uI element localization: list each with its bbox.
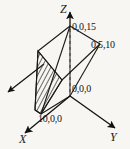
coordinate-diagram: Z Y X 0,0,15 0,5,10 0,0,0 10,0,0 [0,0,130,149]
coord-label-bottom-left-vertex: 10,0,0 [38,114,62,124]
coord-label-origin: 0,0,0 [72,84,91,94]
axis-label-x: X [19,133,26,145]
coord-label-top-apex: 0,0,15 [72,22,96,32]
axis-y [70,96,115,128]
axis-label-z: Z [60,3,67,15]
coord-label-right-vertex: 0,5,10 [91,40,115,50]
hatched-face [35,51,62,114]
axis-label-y: Y [110,131,117,143]
diagram-canvas [0,0,130,149]
